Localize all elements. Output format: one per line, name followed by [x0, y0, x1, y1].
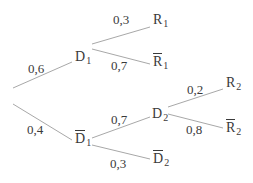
prob-d2-r2: 0,2	[187, 83, 203, 96]
prob-d1-r1bar: 0,7	[111, 59, 127, 72]
prob-root-d1bar: 0,4	[27, 123, 43, 136]
node-letter: D	[153, 152, 163, 166]
node-subscript: 1	[163, 60, 168, 71]
node-subscript: 2	[236, 81, 241, 92]
prob-d2-r2bar: 0,8	[186, 123, 202, 136]
node-letter: R	[226, 76, 235, 90]
node-letter: D	[75, 132, 85, 146]
node-d2-bar: D2	[153, 152, 169, 170]
node-subscript: 1	[86, 137, 91, 148]
prob-d1bar-d2bar: 0,3	[110, 157, 126, 170]
node-letter: R	[226, 121, 235, 135]
node-subscript: 2	[236, 126, 241, 137]
tree-edges	[0, 0, 253, 183]
edge-d1-r1	[92, 27, 150, 44]
node-r1: R1	[153, 13, 168, 31]
node-r1-bar: R1	[153, 55, 168, 73]
prob-root-d1: 0,6	[28, 62, 44, 75]
node-subscript: 2	[164, 157, 169, 168]
node-d2: D2	[152, 107, 168, 125]
prob-d1bar-d2: 0,7	[111, 113, 127, 126]
node-letter: R	[153, 13, 162, 27]
node-d1: D1	[75, 50, 91, 68]
node-r2: R2	[226, 76, 241, 94]
node-subscript: 1	[163, 18, 168, 29]
node-d1-bar: D1	[75, 132, 91, 150]
node-letter: R	[153, 55, 162, 69]
node-letter: D	[152, 107, 162, 121]
node-subscript: 1	[86, 55, 91, 66]
node-letter: D	[75, 50, 85, 64]
node-r2-bar: R2	[226, 121, 241, 139]
prob-d1-r1: 0,3	[113, 13, 129, 26]
node-subscript: 2	[163, 112, 168, 123]
